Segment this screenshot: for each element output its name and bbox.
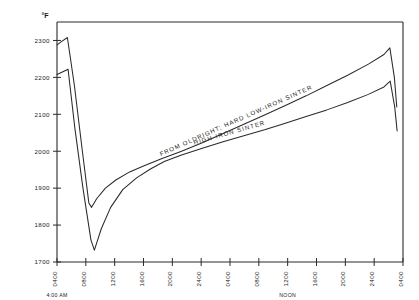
axes-group: [57, 22, 403, 262]
y-tick-label: 1900: [34, 184, 50, 191]
data-series-group: [57, 38, 397, 251]
x-tick-label: 0400: [224, 271, 231, 287]
axis-annotation: NOON: [279, 292, 296, 298]
series-line-1: [57, 69, 397, 250]
y-tick-label: 2000: [34, 148, 50, 155]
x-tick-label: 0800: [80, 271, 87, 287]
x-tick-label: 1600: [311, 271, 318, 287]
x-tick-label: 2400: [368, 271, 375, 287]
x-tick-label: 2000: [339, 271, 346, 287]
y-tick-label: 2300: [34, 37, 50, 44]
x-tick-label: 2000: [166, 271, 173, 287]
x-tick-label: 2400: [195, 271, 202, 287]
y-tick-label: 1800: [34, 221, 50, 228]
series-labels-group: FROM OLDRIGHT; HARD LOW-IRON SINTERHIGH-…: [158, 83, 313, 157]
y-tick-label: 1700: [34, 258, 50, 265]
y-tick-label: 2200: [34, 74, 50, 81]
y-axis-unit-label: °F: [41, 12, 49, 19]
annotations-group: 4:00 AMNOON: [46, 292, 296, 298]
x-tick-label: 0400: [51, 271, 58, 287]
y-tick-label: 2100: [34, 111, 50, 118]
temperature-line-chart: 1700180019002000210022002300 04000800120…: [0, 0, 419, 300]
x-tick-label: 1200: [282, 271, 289, 287]
x-tick-label: 1200: [109, 271, 116, 287]
axis-annotation: 4:00 AM: [46, 292, 67, 298]
x-tick-label: 1600: [138, 271, 145, 287]
x-tick-label: 0800: [253, 271, 260, 287]
chart-container: 1700180019002000210022002300 04000800120…: [0, 0, 419, 300]
series-label-0: FROM OLDRIGHT; HARD LOW-IRON SINTER: [158, 83, 313, 157]
x-tick-label: 0400: [397, 271, 404, 287]
